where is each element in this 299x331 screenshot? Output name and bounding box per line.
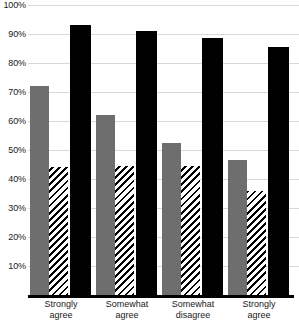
- bar-group-2-series-gray: [96, 115, 115, 295]
- bar-group-3: [162, 0, 226, 295]
- x-axis-label-4-line1: Strongly: [242, 299, 275, 309]
- bar-group-4-series-black: [268, 47, 289, 295]
- bar-group-1: [30, 0, 94, 295]
- x-axis-label-2-line2: agree: [94, 310, 160, 321]
- bar-group-2-series-hatched: [115, 166, 134, 295]
- x-axis-label-4-line2: agree: [226, 310, 292, 321]
- x-axis-label-3-line2: disagree: [160, 310, 226, 321]
- x-axis-label-1-line2: agree: [28, 310, 94, 321]
- bar-group-3-series-black: [202, 38, 223, 295]
- bar-group-4-series-gray: [228, 160, 247, 295]
- bar-group-4: [228, 0, 292, 295]
- bar-chart: 100% 90% 80% 70% 60% 50% 40% 30% 20% 10%: [0, 0, 299, 331]
- x-axis-label-2: Somewhat agree: [94, 299, 160, 321]
- bar-group-3-series-gray: [162, 143, 181, 295]
- bar-group-1-series-hatched: [49, 167, 68, 295]
- bar-group-4-series-hatched: [247, 191, 266, 295]
- x-axis-labels: Strongly agree Somewhat agree Somewhat d…: [28, 299, 299, 329]
- bar-group-2-series-black: [136, 31, 157, 295]
- cropped-caption: [0, 327, 299, 331]
- bar-group-1-series-gray: [30, 86, 49, 295]
- x-axis-label-3: Somewhat disagree: [160, 299, 226, 321]
- bar-group-3-series-hatched: [181, 166, 200, 295]
- bar-group-1-series-black: [70, 25, 91, 295]
- x-axis-label-2-line1: Somewhat: [106, 299, 149, 309]
- x-axis-label-4: Strongly agree: [226, 299, 292, 321]
- x-axis-label-1-line1: Strongly: [44, 299, 77, 309]
- bar-group-2: [96, 0, 160, 295]
- x-axis-label-1: Strongly agree: [28, 299, 94, 321]
- x-axis-line: [28, 295, 294, 298]
- x-axis-label-3-line1: Somewhat: [172, 299, 215, 309]
- bar-groups: [0, 0, 299, 295]
